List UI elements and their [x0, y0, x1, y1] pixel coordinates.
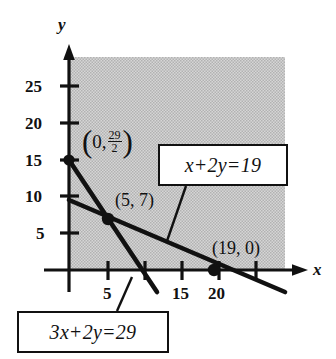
paren-close: ) [123, 129, 133, 154]
x-tick-label-20: 20 [208, 285, 225, 302]
x-tick-label-15: 15 [172, 285, 189, 302]
equation-1-lhs-a: x [185, 154, 194, 177]
equation-2-op: + [69, 321, 83, 344]
equation-box-3x-plus-2y-29: 3x + 2y = 29 [17, 311, 169, 353]
fraction-denominator: 2 [108, 141, 122, 154]
x-tick-label-5: 5 [103, 285, 112, 302]
x-axis-label: x [313, 261, 322, 278]
fraction-numerator: 29 [108, 129, 122, 141]
fraction-29-over-2: 29 2 [108, 129, 122, 154]
point-x-text: 0, [92, 132, 106, 151]
y-tick-label-5: 5 [36, 225, 45, 242]
paren-open: ( [82, 129, 92, 154]
leader-line-lower [117, 277, 132, 311]
point-marker-0-29-over-2 [63, 154, 74, 165]
equation-1-rhs: 19 [241, 154, 262, 177]
equation-1-op: + [194, 154, 208, 177]
y-tick-label-10: 10 [25, 188, 42, 205]
graph-figure: y x 25 20 15 10 5 5 15 20 ( 0, 29 2 ) (5… [0, 0, 336, 359]
point-label-19-0: (19, 0) [212, 239, 260, 257]
equation-2-lhs-b: 2y [83, 321, 102, 344]
point-label-0-29-over-2: ( 0, 29 2 ) [82, 129, 133, 154]
equation-1-equals: = [227, 154, 241, 177]
point-marker-5-7 [102, 213, 114, 225]
equation-box-x-plus-2y-19: x + 2y = 19 [158, 144, 288, 186]
y-tick-label-15: 15 [25, 152, 42, 169]
equation-2-rhs: 29 [116, 321, 137, 344]
y-tick-label-25: 25 [25, 78, 42, 95]
equation-1-lhs-b: 2y [208, 154, 227, 177]
point-marker-19-0 [208, 264, 220, 276]
y-axis-label: y [58, 16, 66, 33]
y-tick-label-20: 20 [25, 115, 42, 132]
equation-2-lhs-a: 3x [50, 321, 69, 344]
equation-2-equals: = [102, 321, 116, 344]
point-label-5-7: (5, 7) [115, 191, 154, 209]
